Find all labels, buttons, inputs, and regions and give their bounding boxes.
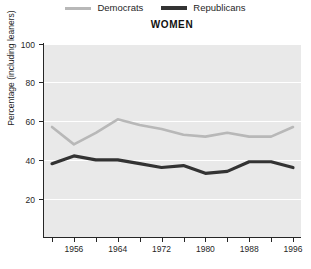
legend-label-democrats: Democrats (97, 3, 143, 13)
x-tick-1992 (271, 238, 272, 242)
x-tick-label-1996: 1996 (273, 244, 311, 254)
y-tick-label-100: 100 (9, 40, 35, 50)
series-lines (44, 44, 301, 237)
x-tick-1996 (293, 238, 294, 242)
x-tick-1976 (184, 238, 185, 242)
legend-item-republicans: Republicans (161, 3, 245, 13)
y-tick-label-80: 80 (9, 78, 35, 88)
x-tick-1980 (205, 238, 206, 242)
x-axis-line (43, 237, 301, 238)
y-tick-40 (39, 160, 43, 161)
x-tick-1952 (52, 238, 53, 242)
y-tick-20 (39, 199, 43, 200)
x-tick-1972 (162, 238, 163, 242)
x-tick-1964 (118, 238, 119, 242)
chart-figure: Democrats Republicans WOMEN Percentage (… (0, 0, 311, 269)
x-tick-1968 (140, 238, 141, 242)
y-tick-label-40: 40 (9, 156, 35, 166)
y-axis-line (43, 43, 44, 238)
legend-label-republicans: Republicans (193, 3, 245, 13)
legend-swatch-republicans-icon (161, 6, 187, 10)
y-tick-100 (39, 44, 43, 45)
x-tick-1988 (249, 238, 250, 242)
x-tick-1960 (96, 238, 97, 242)
line-democrats (52, 119, 293, 144)
x-tick-1956 (74, 238, 75, 242)
y-axis-label: Percentage (including leaners) (6, 0, 16, 153)
x-tick-label-1980: 1980 (185, 244, 225, 254)
y-tick-60 (39, 121, 43, 122)
chart-title: WOMEN (43, 19, 301, 30)
y-tick-label-60: 60 (9, 117, 35, 127)
x-tick-label-1988: 1988 (229, 244, 269, 254)
y-tick-label-20: 20 (9, 195, 35, 205)
x-tick-1984 (227, 238, 228, 242)
x-tick-label-1956: 1956 (54, 244, 94, 254)
x-tick-label-1972: 1972 (142, 244, 182, 254)
legend-swatch-democrats-icon (65, 7, 91, 10)
x-tick-label-1964: 1964 (98, 244, 138, 254)
line-republicans (52, 156, 293, 173)
y-tick-80 (39, 82, 43, 83)
chart-legend: Democrats Republicans (0, 3, 311, 13)
legend-item-democrats: Democrats (65, 3, 143, 13)
